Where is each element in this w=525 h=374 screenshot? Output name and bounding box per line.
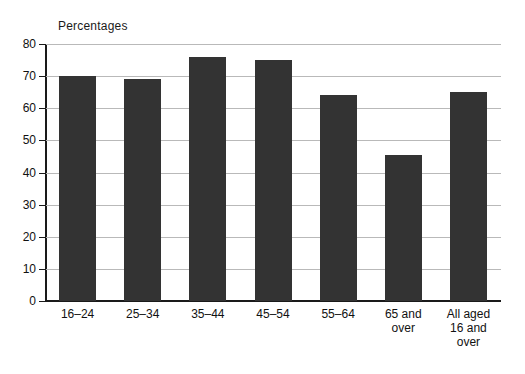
- bar: [59, 76, 96, 301]
- x-tick-label: All aged 16 and over: [436, 307, 501, 349]
- y-tick-mark-30: [39, 205, 46, 206]
- x-axis-tick-labels: 16–2425–3435–4445–5455–6465 and overAll …: [45, 307, 501, 373]
- bar: [255, 60, 292, 301]
- bar: [320, 95, 357, 301]
- y-tick-label-40: 40: [4, 167, 36, 179]
- y-tick-label-70: 70: [4, 70, 36, 82]
- bar: [189, 57, 226, 301]
- bar: [450, 92, 487, 301]
- x-tick-label: 65 and over: [371, 307, 436, 335]
- bars-layer: [45, 44, 501, 301]
- y-tick-label-20: 20: [4, 231, 36, 243]
- x-tick-label: 16–24: [45, 307, 110, 321]
- x-tick-label: 25–34: [110, 307, 175, 321]
- y-tick-label-80: 80: [4, 38, 36, 50]
- y-tick-label-30: 30: [4, 199, 36, 211]
- y-tick-label-10: 10: [4, 263, 36, 275]
- y-tick-mark-20: [39, 237, 46, 238]
- y-axis-tick-labels: 80706050403020100: [0, 44, 36, 302]
- bar: [124, 79, 161, 301]
- y-tick-label-60: 60: [4, 102, 36, 114]
- y-tick-mark-80: [39, 44, 46, 45]
- x-tick-label: 55–64: [306, 307, 371, 321]
- x-tick-label: 45–54: [240, 307, 305, 321]
- chart-title: Percentages: [58, 19, 128, 33]
- y-tick-label-0: 0: [4, 295, 36, 307]
- bar-chart: Percentages 80706050403020100 16–2425–34…: [0, 0, 525, 374]
- y-tick-mark-50: [39, 140, 46, 141]
- y-tick-mark-60: [39, 108, 46, 109]
- y-tick-label-50: 50: [4, 134, 36, 146]
- y-tick-mark-10: [39, 269, 46, 270]
- y-tick-mark-70: [39, 76, 46, 77]
- y-tick-mark-40: [39, 173, 46, 174]
- bar: [385, 155, 422, 301]
- y-tick-mark-0: [39, 301, 46, 302]
- x-tick-label: 35–44: [175, 307, 240, 321]
- plot-area: [45, 44, 501, 301]
